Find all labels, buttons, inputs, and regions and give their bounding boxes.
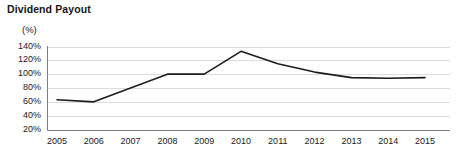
- dividend-payout-chart-figure: Dividend Payout (%) 20%40%60%80%100%120%…: [0, 0, 456, 154]
- x-tick-label-2005: 2005: [47, 136, 67, 146]
- x-tick-label-2013: 2013: [341, 136, 361, 146]
- series-line-dividend-payout: [57, 51, 425, 101]
- y-tick-label-80: 80%: [1, 82, 41, 92]
- y-tick-label-40: 40%: [1, 110, 41, 120]
- plot-area: 20%40%60%80%100%120%140% 200520062007200…: [0, 0, 456, 154]
- line-chart-svg: [0, 0, 456, 154]
- y-tick-label-20: 20%: [1, 124, 41, 134]
- gridlines-group: [48, 48, 451, 117]
- y-tick-label-60: 60%: [1, 96, 41, 106]
- x-tick-label-2014: 2014: [378, 136, 398, 146]
- y-tick-label-120: 120%: [1, 54, 41, 64]
- x-tick-label-2012: 2012: [305, 136, 325, 146]
- x-tick-label-2011: 2011: [268, 136, 287, 146]
- y-tick-label-140: 140%: [1, 41, 41, 51]
- data-series-group: [57, 51, 425, 101]
- x-tick-label-2007: 2007: [121, 136, 141, 146]
- y-tick-label-100: 100%: [1, 68, 41, 78]
- x-tick-label-2009: 2009: [194, 136, 214, 146]
- x-tick-label-2010: 2010: [231, 136, 251, 146]
- x-tick-label-2015: 2015: [415, 136, 435, 146]
- x-tick-label-2006: 2006: [84, 136, 104, 146]
- x-tick-label-2008: 2008: [157, 136, 177, 146]
